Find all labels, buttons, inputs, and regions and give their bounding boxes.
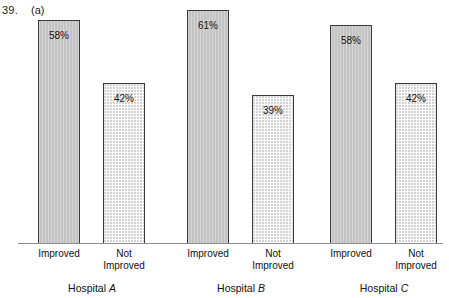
bar-hospital-a-not-improved: 42% (103, 83, 145, 244)
group-label-letter: A (109, 282, 116, 294)
bar-hospital-b-not-improved: 39% (252, 95, 294, 244)
bar-hospital-a-improved: 58% (38, 20, 80, 244)
bar-value-label: 42% (104, 93, 144, 104)
bar-value-label: 42% (396, 93, 436, 104)
bar-value-label: 61% (188, 20, 228, 31)
bar-value-label: 58% (39, 30, 79, 41)
chart-plot-area: 58% 42% 61% 39% 58% 42% (0, 0, 449, 244)
category-label-c-not-improved: Not Improved (376, 248, 449, 272)
category-label-b-not-improved: Not Improved (233, 248, 313, 272)
group-label-letter: C (401, 282, 409, 294)
group-label-letter: B (258, 282, 265, 294)
chart-baseline-axis (18, 243, 443, 244)
group-label-hospital-c: Hospital C (313, 282, 449, 294)
group-label-hospital-b: Hospital B (170, 282, 312, 294)
group-label-prefix: Hospital (217, 282, 255, 294)
group-label-hospital-a: Hospital A (21, 282, 163, 294)
group-label-prefix: Hospital (360, 282, 398, 294)
group-label-prefix: Hospital (68, 282, 106, 294)
bar-hospital-c-improved: 58% (330, 25, 372, 244)
bar-hospital-b-improved: 61% (187, 10, 229, 244)
category-label-a-not-improved: Not Improved (84, 248, 164, 272)
bar-value-label: 39% (253, 105, 293, 116)
bar-value-label: 58% (331, 35, 371, 46)
figure-container: 39. (a) 58% 42% 61% 39% 58% 42% Improved… (0, 0, 449, 298)
bar-hospital-c-not-improved: 42% (395, 83, 437, 244)
